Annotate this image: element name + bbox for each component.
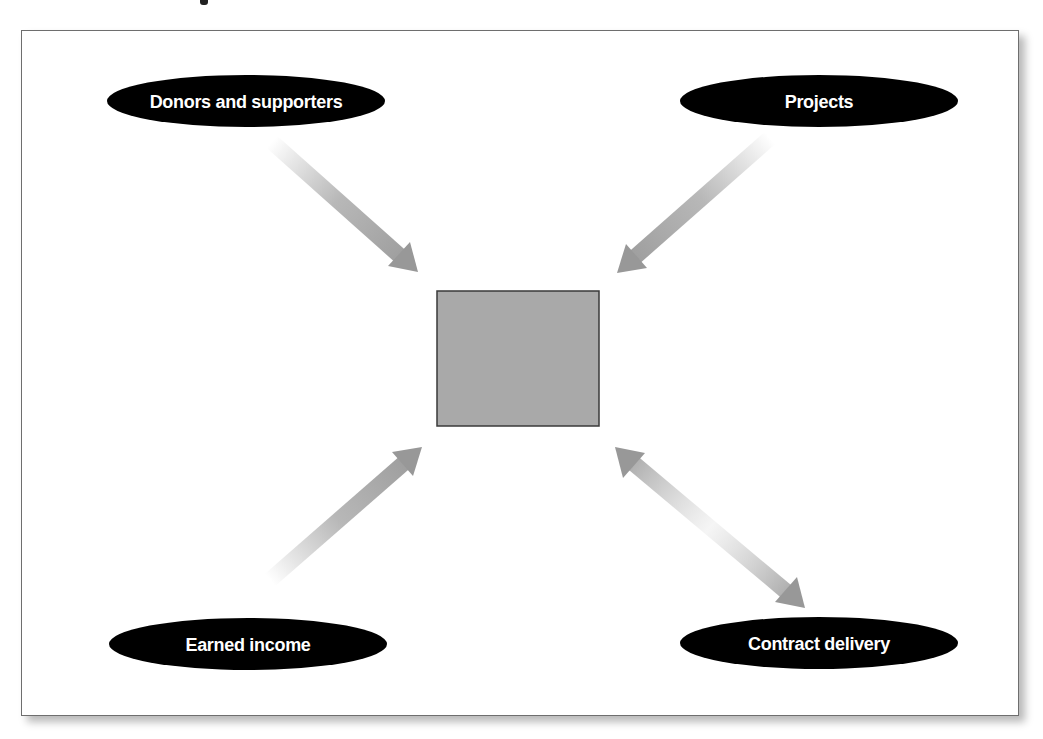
node-donors-and-supporters: Donors and supporters: [107, 75, 385, 127]
node-label: Contract delivery: [748, 634, 890, 654]
node-label: Projects: [785, 92, 854, 112]
arrow-contract-center-bidirectional: [615, 447, 805, 608]
arrow-projects-to-center: [617, 138, 770, 273]
arrow-earned-to-center: [270, 447, 422, 580]
node-earned-income: Earned income: [109, 618, 387, 670]
node-label: Earned income: [185, 635, 310, 655]
node-label: Donors and supporters: [150, 92, 343, 112]
center-hub-square: [437, 291, 599, 426]
diagram-canvas: Donors and supporters Projects Earned in…: [0, 0, 1043, 739]
arrow-donors-to-center: [272, 142, 418, 272]
node-projects: Projects: [680, 75, 958, 127]
node-contract-delivery: Contract delivery: [680, 617, 958, 669]
